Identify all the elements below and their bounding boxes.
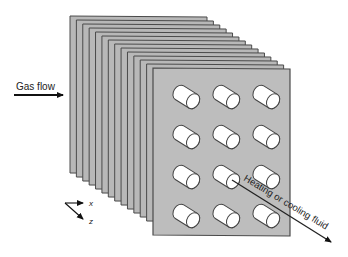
axis-x-label: x	[88, 199, 94, 208]
gas-flow-label: Gas flow	[16, 81, 56, 92]
axis-z-label: z	[88, 217, 93, 226]
axis-indicator	[65, 203, 83, 219]
heat-exchanger-diagram: Gas flow Heating or cooling fluid x z	[0, 0, 348, 257]
